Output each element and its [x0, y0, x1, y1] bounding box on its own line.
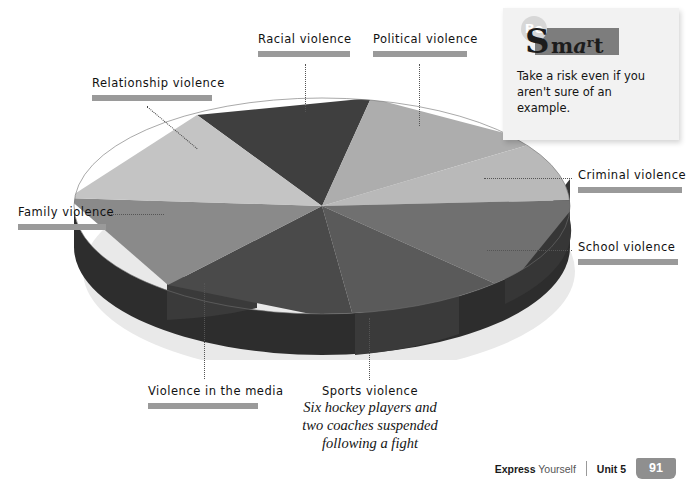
- callout-rule-racial-violence: [258, 51, 350, 57]
- callout-family-violence: Family violence: [18, 205, 106, 230]
- footer-book-title-bold: Express: [495, 463, 536, 475]
- callout-label-sports-violence: Sports violence: [297, 384, 443, 398]
- callout-relationship-violence: Relationship violence: [92, 76, 212, 101]
- callout-rule-political-violence: [373, 51, 467, 57]
- footer-book-title: Express Yourself: [495, 463, 576, 475]
- be-smart-logo: Be S mart: [515, 16, 661, 62]
- callout-violence-in-the-media: Violence in the media: [148, 384, 258, 409]
- callout-label-school-violence: School violence: [578, 240, 678, 254]
- footer-page-number: 91: [636, 458, 676, 479]
- worksheet-page: Racial violence Political violence Relat…: [0, 0, 686, 485]
- be-smart-letter-a: a: [573, 33, 587, 58]
- be-smart-letter-s: S: [525, 24, 550, 58]
- callout-rule-school-violence: [578, 259, 678, 265]
- callout-rule-violence-in-the-media: [148, 403, 258, 409]
- callout-rule-criminal-violence: [578, 187, 682, 193]
- callout-sports-violence: Sports violence Six hockey players and t…: [297, 384, 443, 452]
- be-smart-letters-mart: mart: [551, 32, 603, 56]
- be-smart-panel: Be S mart Take a risk even if you aren't…: [503, 8, 679, 140]
- page-footer: Express Yourself Unit 5 91: [495, 458, 676, 479]
- callout-label-political-violence: Political violence: [373, 32, 467, 46]
- callout-school-violence: School violence: [578, 240, 678, 265]
- footer-divider: [586, 461, 587, 476]
- callout-label-violence-in-the-media: Violence in the media: [148, 384, 258, 398]
- be-smart-letter-t: t: [594, 33, 604, 58]
- callout-rule-family-violence: [18, 224, 106, 230]
- be-smart-tip-text: Take a risk even if you aren't sure of a…: [517, 68, 663, 116]
- callout-criminal-violence: Criminal violence: [578, 168, 682, 193]
- callout-racial-violence: Racial violence: [258, 32, 350, 57]
- footer-book-title-light: Yourself: [536, 463, 576, 475]
- callout-label-racial-violence: Racial violence: [258, 32, 350, 46]
- footer-unit: Unit 5: [597, 463, 626, 475]
- callout-rule-relationship-violence: [92, 95, 212, 101]
- be-smart-letter-r: r: [587, 35, 594, 50]
- callout-political-violence: Political violence: [373, 32, 467, 57]
- callout-label-family-violence: Family violence: [18, 205, 106, 219]
- callout-label-relationship-violence: Relationship violence: [92, 76, 212, 90]
- be-smart-letter-m: m: [551, 33, 573, 58]
- sports-violence-note: Six hockey players and two coaches suspe…: [302, 399, 437, 451]
- callout-label-criminal-violence: Criminal violence: [578, 168, 682, 182]
